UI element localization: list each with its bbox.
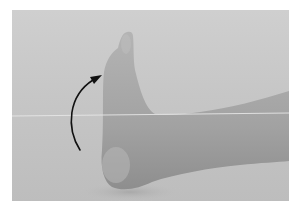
toe-highlight: [121, 34, 131, 54]
photo-frame: [12, 10, 289, 201]
curved-arrow-icon: [71, 75, 102, 150]
foot-illustration: [12, 10, 289, 201]
heel-highlight: [102, 147, 130, 183]
